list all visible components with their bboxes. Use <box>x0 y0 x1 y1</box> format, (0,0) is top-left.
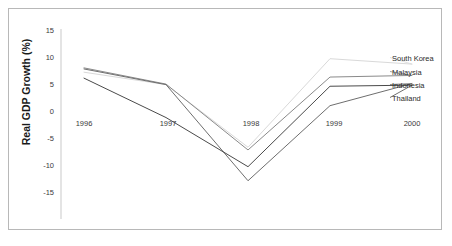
y-tick-10: 10 <box>28 53 54 62</box>
x-tick-2000: 2000 <box>392 119 432 128</box>
y-tick-neg15: -15 <box>28 188 54 197</box>
x-tick-1997: 1997 <box>148 119 188 128</box>
series-label-south-korea: South Korea <box>392 54 434 63</box>
x-tick-1998: 1998 <box>231 119 271 128</box>
series-label-indonesia: Indonesia <box>392 81 425 90</box>
y-tick-5: 5 <box>28 80 54 89</box>
series-line-malaysia <box>84 68 412 150</box>
x-tick-1996: 1996 <box>64 119 104 128</box>
series-label-thailand: Thailand <box>392 94 421 103</box>
x-tick-1999: 1999 <box>314 119 354 128</box>
y-tick-neg10: -10 <box>28 161 54 170</box>
y-tick-15: 15 <box>28 26 54 35</box>
series-label-malaysia: Malaysia <box>392 68 422 77</box>
chart-figure: Real GDP Growth (%) 15 10 5 0 -5 -10 -15… <box>0 0 452 246</box>
series-line-south-korea <box>84 59 412 148</box>
y-tick-0: 0 <box>28 107 54 116</box>
y-tick-neg5: -5 <box>28 134 54 143</box>
